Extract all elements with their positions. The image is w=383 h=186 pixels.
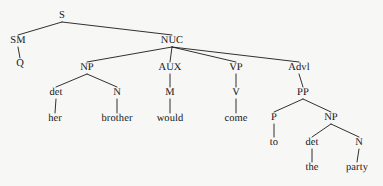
tree-node-NUC: NUC bbox=[161, 36, 183, 47]
tree-node-VP: VP bbox=[229, 63, 243, 74]
tree-leaf-would: would bbox=[157, 114, 184, 125]
tree-edge-NP2-to-N2 bbox=[331, 124, 359, 137]
tree-edge-Advl-to-PP bbox=[299, 74, 303, 87]
tree-edge-S-to-SM bbox=[18, 22, 62, 35]
tree-node-N1: N bbox=[113, 88, 121, 99]
tree-edge-S-to-NUC bbox=[62, 22, 172, 35]
tree-edge-NUC-to-Advl bbox=[172, 47, 299, 62]
tree-edge-PP-to-P bbox=[274, 99, 303, 112]
tree-node-S: S bbox=[59, 11, 65, 22]
tree-node-NP1: NP bbox=[80, 63, 94, 74]
tree-node-det2: det bbox=[305, 138, 318, 149]
tree-node-det1: det bbox=[49, 88, 62, 99]
tree-node-N2: N bbox=[355, 138, 363, 149]
tree-edge-det1-to-her bbox=[55, 99, 56, 113]
tree-node-PP: PP bbox=[297, 88, 309, 99]
tree-leaf-her: her bbox=[48, 114, 62, 125]
tree-leaf-party: party bbox=[346, 163, 368, 174]
tree-edge-NUC-to-AUX bbox=[170, 47, 172, 62]
tree-edge-NUC-to-VP bbox=[172, 47, 236, 62]
tree-leaf-to: to bbox=[270, 138, 278, 149]
tree-edge-SM-to-Q bbox=[18, 47, 20, 58]
tree-node-Q: Q bbox=[16, 59, 24, 70]
tree-leaf-brother: brother bbox=[101, 114, 132, 125]
tree-node-P: P bbox=[271, 113, 277, 124]
tree-leaf-come: come bbox=[224, 114, 247, 125]
tree-node-Advl: Advl bbox=[288, 63, 309, 74]
tree-node-V: V bbox=[232, 88, 240, 99]
tree-node-M: M bbox=[165, 88, 174, 99]
tree-node-AUX: AUX bbox=[158, 63, 181, 74]
tree-edge-N2-to-party bbox=[357, 149, 359, 162]
tree-edge-PP-to-NP2 bbox=[303, 99, 331, 112]
tree-edge-NP1-to-det1 bbox=[56, 74, 87, 87]
tree-edge-NUC-to-NP1 bbox=[87, 47, 172, 62]
tree-node-SM: SM bbox=[10, 36, 25, 47]
tree-leaf-the: the bbox=[305, 163, 318, 174]
tree-edge-NP2-to-det2 bbox=[312, 124, 331, 137]
syntax-tree-diagram: SSMQNUCNPAUXVPAdvldetNMVPPherbrotherwoul… bbox=[0, 0, 383, 186]
tree-node-NP2: NP bbox=[324, 113, 338, 124]
tree-edge-NP1-to-N1 bbox=[87, 74, 117, 87]
